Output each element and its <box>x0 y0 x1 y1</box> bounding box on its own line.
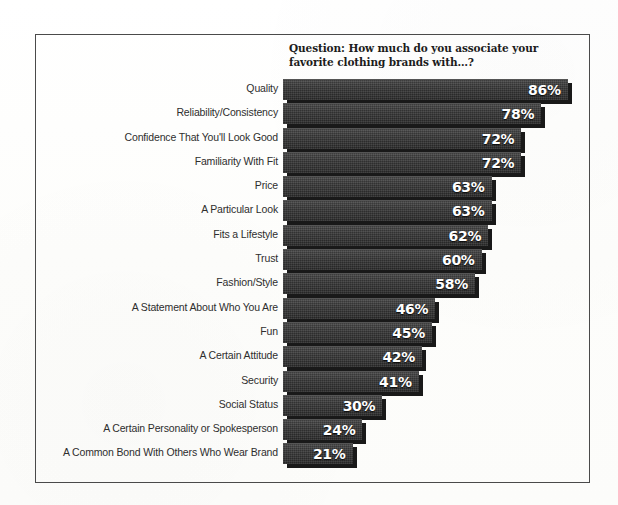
bar: 41% <box>283 371 419 392</box>
bar-category-label: A Common Bond With Others Who Wear Brand <box>18 446 278 458</box>
bar-value-label: 63% <box>452 203 485 220</box>
bar: 72% <box>283 152 521 173</box>
bar-fill: 60% <box>283 249 482 270</box>
bar: 30% <box>283 395 382 416</box>
bar-row: Reliability/Consistency78% <box>0 102 618 126</box>
bar: 21% <box>283 443 353 464</box>
bar-fill: 58% <box>283 273 475 294</box>
bar-value-label: 72% <box>482 131 515 148</box>
bar-category-label: Trust <box>18 252 278 264</box>
bar-category-label: A Particular Look <box>18 203 278 215</box>
bar-value-label: 21% <box>313 446 346 463</box>
bar-fill: 62% <box>283 225 488 246</box>
bar-row: A Particular Look63% <box>0 199 618 223</box>
bar-value-label: 72% <box>482 155 515 172</box>
bar-row: A Certain Personality or Spokesperson24% <box>0 418 618 442</box>
bar: 86% <box>283 79 568 100</box>
bar-row: A Certain Attitude42% <box>0 345 618 369</box>
bar-fill: 72% <box>283 128 521 149</box>
bar-value-label: 58% <box>435 276 468 293</box>
bar-fill: 45% <box>283 322 432 343</box>
bar-row: Fashion/Style58% <box>0 272 618 296</box>
bar-row: Social Status30% <box>0 394 618 418</box>
bar-value-label: 86% <box>528 82 561 99</box>
bar: 46% <box>283 298 435 319</box>
bar: 58% <box>283 273 475 294</box>
bar-row: Security41% <box>0 370 618 394</box>
bar-row: Fits a Lifestyle62% <box>0 224 618 248</box>
bar-category-label: A Certain Personality or Spokesperson <box>18 422 278 434</box>
bar-fill: 41% <box>283 371 419 392</box>
bar-fill: 86% <box>283 79 568 100</box>
bar-fill: 78% <box>283 103 541 124</box>
bar: 42% <box>283 346 422 367</box>
bar: 24% <box>283 419 362 440</box>
bar-value-label: 63% <box>452 179 485 196</box>
bar-fill: 30% <box>283 395 382 416</box>
bar-value-label: 62% <box>449 228 482 245</box>
bar-value-label: 41% <box>379 374 412 391</box>
bar-category-label: Social Status <box>18 398 278 410</box>
bar-value-label: 46% <box>396 301 429 318</box>
bar-row: Quality86% <box>0 78 618 102</box>
bar-category-label: Security <box>18 374 278 386</box>
bar-category-label: Price <box>18 179 278 191</box>
bar-value-label: 45% <box>392 325 425 342</box>
bar-category-label: Fun <box>18 325 278 337</box>
bar: 78% <box>283 103 541 124</box>
bar-category-label: Reliability/Consistency <box>18 106 278 118</box>
bar-row: A Statement About Who You Are46% <box>0 297 618 321</box>
bar: 63% <box>283 176 492 197</box>
bar-row: Familiarity With Fit72% <box>0 151 618 175</box>
bar-fill: 63% <box>283 176 492 197</box>
bar-category-label: Familiarity With Fit <box>18 155 278 167</box>
bar-fill: 24% <box>283 419 362 440</box>
bar-row: Confidence That You'll Look Good72% <box>0 127 618 151</box>
bar: 63% <box>283 200 492 221</box>
bar-value-label: 60% <box>442 252 475 269</box>
bar-fill: 46% <box>283 298 435 319</box>
bar-value-label: 78% <box>502 106 535 123</box>
bar-value-label: 24% <box>323 422 356 439</box>
bar: 60% <box>283 249 482 270</box>
bar-category-label: Confidence That You'll Look Good <box>18 131 278 143</box>
bar-fill: 42% <box>283 346 422 367</box>
bar-chart-plot-area: Quality86%Reliability/Consistency78%Conf… <box>0 78 618 467</box>
bar: 62% <box>283 225 488 246</box>
bar-value-label: 42% <box>382 349 415 366</box>
bar-fill: 63% <box>283 200 492 221</box>
bar-category-label: A Certain Attitude <box>18 349 278 361</box>
bar-category-label: Fashion/Style <box>18 276 278 288</box>
bar-row: Trust60% <box>0 248 618 272</box>
bar-category-label: A Statement About Who You Are <box>18 301 278 313</box>
bar-category-label: Quality <box>18 82 278 94</box>
chart-question-title: Question: How much do you associate your… <box>289 41 579 69</box>
bar-row: Fun45% <box>0 321 618 345</box>
bar-category-label: Fits a Lifestyle <box>18 228 278 240</box>
bar-value-label: 30% <box>343 398 376 415</box>
bar: 72% <box>283 128 521 149</box>
bar-fill: 72% <box>283 152 521 173</box>
bar-row: Price63% <box>0 175 618 199</box>
bar-row: A Common Bond With Others Who Wear Brand… <box>0 442 618 466</box>
bar-fill: 21% <box>283 443 353 464</box>
bar: 45% <box>283 322 432 343</box>
